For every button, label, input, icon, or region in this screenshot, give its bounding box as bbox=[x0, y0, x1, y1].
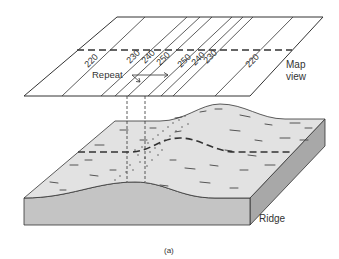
terrain-block bbox=[24, 104, 325, 225]
figure-caption: (a) bbox=[164, 246, 174, 255]
map-view-label: view bbox=[286, 71, 307, 82]
map-view-label: Map bbox=[286, 59, 306, 70]
topographic-ridge-diagram: 220 230 240 250 250 240 230 220 Repeat M… bbox=[0, 0, 339, 259]
repeat-label: Repeat bbox=[92, 69, 123, 80]
map-view-plane: 220 230 240 250 250 240 230 220 Repeat M… bbox=[24, 17, 323, 96]
ridge-label: Ridge bbox=[259, 213, 286, 224]
